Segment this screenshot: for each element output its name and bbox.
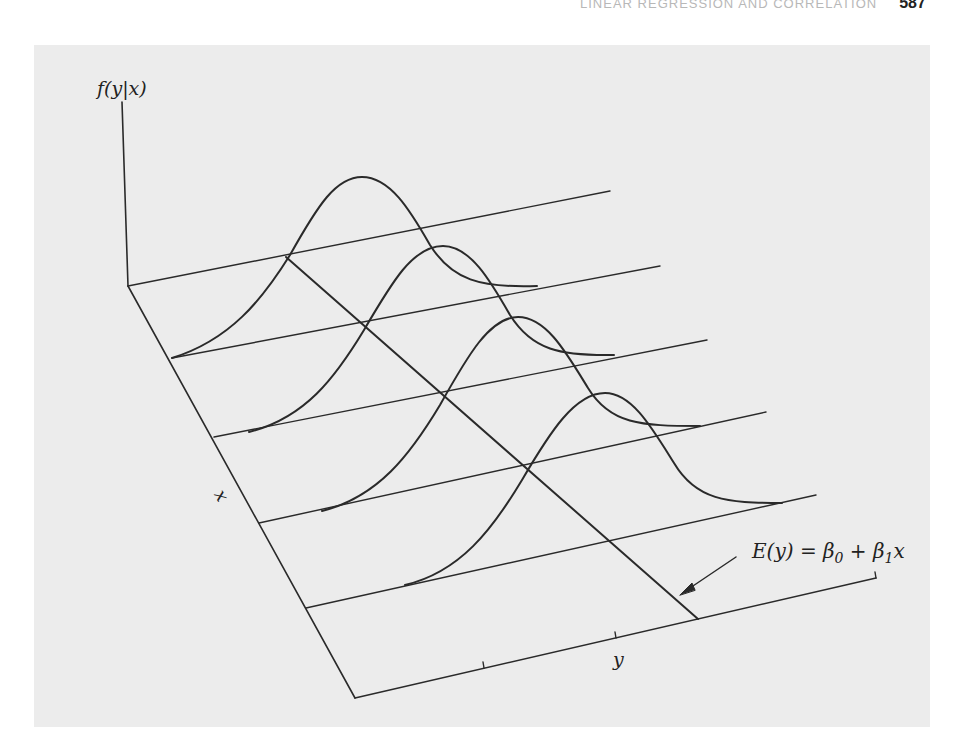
y-axis-tick (615, 632, 616, 638)
x-axis (128, 286, 355, 698)
normal-curve-4 (405, 393, 782, 585)
grid-line (306, 495, 816, 608)
regression-equation: E(y) = β0 + β1x (751, 539, 905, 566)
grid-line (214, 340, 707, 437)
x-axis-label: x (210, 486, 233, 505)
grid-line (172, 266, 660, 358)
regression-line (286, 257, 698, 619)
y-axis-tick (483, 662, 484, 668)
normal-curve-3 (322, 317, 700, 511)
regression-diagram: f(y|x) x y E(y) = β0 + β1x (0, 0, 964, 756)
grid-line (128, 191, 610, 286)
vertical-axis-label: f(y|x) (95, 77, 147, 100)
y-axis-tick (875, 572, 876, 578)
y-axis-label: y (612, 648, 624, 670)
arrow-head-icon (680, 583, 695, 595)
normal-curve-1 (172, 177, 537, 358)
vertical-axis (122, 102, 128, 286)
